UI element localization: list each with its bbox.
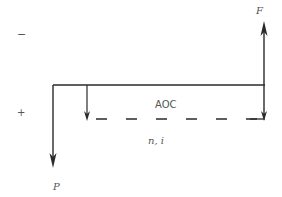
future-value-label: F	[255, 5, 264, 16]
cash-flow-diagram: − + P AOC n, i F	[0, 0, 282, 197]
negative-sign-label: −	[17, 28, 26, 41]
positive-sign-label: +	[17, 107, 25, 118]
period-rate-label: n, i	[148, 135, 164, 146]
present-value-label: P	[52, 181, 60, 192]
aoc-label: AOC	[155, 99, 177, 110]
